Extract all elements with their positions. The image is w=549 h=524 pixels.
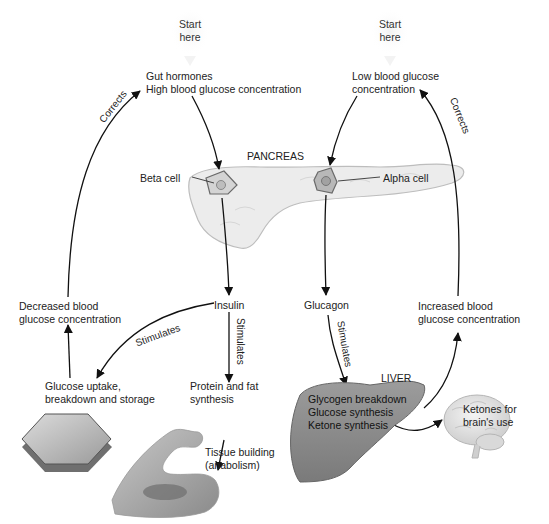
protein-fat-synthesis-label: Protein and fat synthesis: [190, 380, 258, 406]
start-here-left: Start here: [170, 18, 210, 44]
label-line: High blood glucose concentration: [146, 83, 301, 96]
label-line: (anabolism): [205, 459, 275, 472]
arrow-uptake-to-decreased: [68, 325, 70, 378]
start-here-right: Start here: [370, 18, 410, 44]
arrow-trigger-to-beta: [192, 96, 219, 169]
label-line: brain's use: [463, 416, 517, 429]
liver-process-item: Ketone synthesis: [308, 419, 407, 432]
label-line: glucose concentration: [19, 313, 121, 326]
label-line: Decreased blood: [19, 300, 121, 313]
label-line: concentration: [352, 83, 439, 96]
start-text-line: here: [170, 31, 210, 44]
glucose-uptake-label: Glucose uptake, breakdown and storage: [45, 380, 155, 406]
low-glucose-trigger-label: Low blood glucose concentration: [352, 70, 439, 96]
arrow-alpha-to-glucagon: [325, 195, 326, 295]
arrow-liver-to-increased: [424, 333, 458, 408]
arrow-trigger-to-alpha: [330, 96, 357, 165]
label-line: breakdown and storage: [45, 393, 155, 406]
label-line: synthesis: [190, 393, 258, 406]
label-line: glucose concentration: [418, 313, 520, 326]
liver-processes: Glycogen breakdown Glucose synthesis Ket…: [308, 393, 407, 432]
arrow-corrects-right: [420, 90, 459, 296]
liver-process-item: Glycogen breakdown: [308, 393, 407, 406]
glucose-hexagon-icon: [22, 414, 112, 472]
glucagon-label: Glucagon: [304, 299, 349, 312]
label-line: Protein and fat: [190, 380, 258, 393]
label-line: Tissue building: [205, 446, 275, 459]
alpha-cell-label: Alpha cell: [383, 172, 429, 185]
liver-process-item: Glucose synthesis: [308, 406, 407, 419]
start-text-line: here: [370, 31, 410, 44]
tissue-building-label: Tissue building (anabolism): [205, 446, 275, 472]
label-line: Gut hormones: [146, 70, 301, 83]
start-text-line: Start: [370, 18, 410, 31]
decreased-glucose-label: Decreased blood glucose concentration: [19, 300, 121, 326]
stimulates-insulin-protein-label: Stimulates: [235, 318, 246, 365]
pancreas-label: PANCREAS: [247, 150, 304, 163]
increased-glucose-label: Increased blood glucose concentration: [418, 300, 520, 326]
start-text-line: Start: [170, 18, 210, 31]
liver-label: LIVER: [381, 372, 411, 385]
label-line: Increased blood: [418, 300, 520, 313]
high-glucose-trigger-label: Gut hormones High blood glucose concentr…: [146, 70, 301, 96]
ketones-brain-label: Ketones for brain's use: [463, 403, 517, 429]
beta-cell-label: Beta cell: [140, 172, 180, 185]
label-line: Ketones for: [463, 403, 517, 416]
label-line: Glucose uptake,: [45, 380, 155, 393]
flexed-arm-illustration: [112, 429, 219, 517]
label-line: Low blood glucose: [352, 70, 439, 83]
insulin-label: Insulin: [214, 299, 244, 312]
